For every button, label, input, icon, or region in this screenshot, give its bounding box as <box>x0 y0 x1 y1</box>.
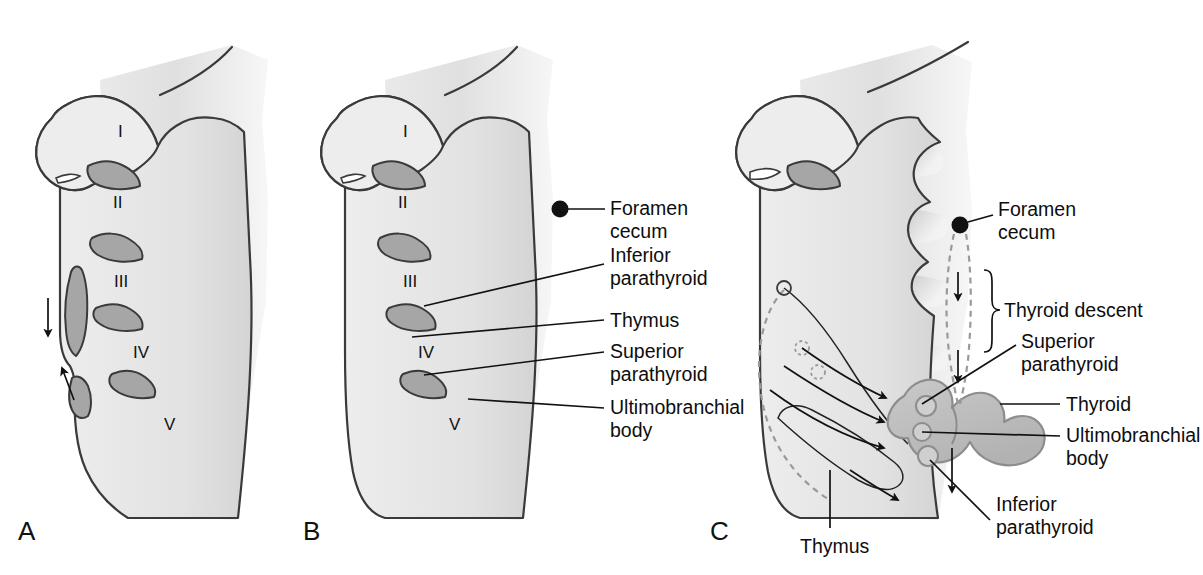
label-ultimo-c-l1: Ultimobranchial <box>1066 424 1200 446</box>
panel-b-roman-5: V <box>449 415 461 434</box>
label-thyroid-descent: Thyroid descent <box>1004 299 1143 321</box>
label-inferior-c-l1: Inferior <box>996 493 1057 515</box>
panel-a-roman-3: III <box>114 272 128 291</box>
foramen-cecum-leader-c <box>968 215 993 222</box>
panel-b-roman-1: I <box>403 122 408 141</box>
label-thymus-c: Thymus <box>800 535 870 557</box>
figure-canvas: I II III IV V A I II III IV <box>0 0 1203 575</box>
foramen-cecum-dot-b <box>552 201 569 218</box>
panel-c-inferior-parathyroid-node <box>918 446 938 466</box>
panel-b-roman-2: II <box>398 193 407 212</box>
anatomy-figure-svg: I II III IV V A I II III IV <box>0 0 1203 575</box>
thyroid-descent-brace <box>984 270 1000 352</box>
panel-b: I II III IV V B <box>303 45 553 546</box>
label-ultimo-b-l2: body <box>610 419 653 441</box>
label-inferior-c-l2: parathyroid <box>996 516 1094 538</box>
label-ultimo-c-l2: body <box>1066 447 1109 469</box>
label-foramen-c-l1: Foramen <box>998 198 1076 220</box>
panel-c-superior-parathyroid-node <box>916 396 936 416</box>
label-thymus-b: Thymus <box>610 309 680 331</box>
label-superior-c-l2: parathyroid <box>1021 353 1119 375</box>
panel-a-roman-4: IV <box>133 343 150 362</box>
label-foramen-b-l1: Foramen <box>610 197 688 219</box>
label-superior-b-l1: Superior <box>610 340 684 362</box>
panel-b-letter: B <box>303 516 320 546</box>
label-ultimo-b-l1: Ultimobranchial <box>610 396 744 418</box>
panel-a-letter: A <box>18 516 36 546</box>
label-thyroid-c: Thyroid <box>1066 393 1131 415</box>
panel-a-roman-1: I <box>118 122 123 141</box>
label-foramen-c-l2: cecum <box>998 221 1055 243</box>
label-superior-b-l2: parathyroid <box>610 363 708 385</box>
label-foramen-b-l2: cecum <box>610 220 667 242</box>
panel-a-roman-2: II <box>113 193 122 212</box>
label-inferior-b-l1: Inferior <box>610 244 671 266</box>
panel-a: I II III IV V A <box>18 45 268 546</box>
foramen-cecum-dot-c <box>952 217 969 234</box>
label-inferior-b-l2: parathyroid <box>610 267 708 289</box>
panel-b-roman-3: III <box>403 272 417 291</box>
panel-b-roman-4: IV <box>418 343 435 362</box>
panel-c-letter: C <box>710 516 729 546</box>
label-superior-c-l1: Superior <box>1021 330 1095 352</box>
panel-a-roman-5: V <box>164 415 176 434</box>
panel-c: C <box>710 42 1045 546</box>
